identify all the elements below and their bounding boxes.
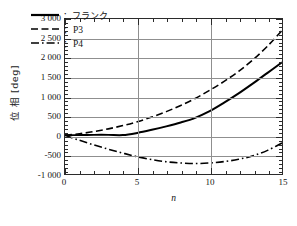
- y-axis-minor-tick: [279, 160, 282, 161]
- y-axis-major-tick: [276, 39, 282, 40]
- y-axis-major-tick: [65, 117, 71, 118]
- x-axis-minor-tick: [240, 171, 241, 174]
- y-axis-minor-tick: [279, 105, 282, 106]
- y-axis-minor-tick: [279, 133, 282, 134]
- y-axis-minor-tick: [65, 66, 68, 67]
- y-axis-minor-tick: [279, 113, 282, 114]
- y-axis-minor-tick: [279, 121, 282, 122]
- x-axis-minor-tick: [240, 19, 241, 22]
- y-axis-minor-tick: [65, 82, 68, 83]
- y-axis-minor-tick: [65, 54, 68, 55]
- series-line-P4: [65, 135, 282, 163]
- y-axis-minor-tick: [65, 50, 68, 51]
- y-axis-minor-tick: [279, 149, 282, 150]
- x-axis-major-tick: [65, 168, 66, 174]
- y-axis-tick-label: -500: [45, 150, 62, 160]
- y-axis-tick-label: 2 000: [41, 52, 61, 62]
- x-axis-minor-tick: [94, 171, 95, 174]
- y-axis-minor-tick: [65, 152, 68, 153]
- x-axis-minor-tick: [196, 171, 197, 174]
- x-axis-minor-tick: [196, 19, 197, 22]
- y-axis-minor-tick: [279, 50, 282, 51]
- x-axis-minor-tick: [255, 19, 256, 22]
- legend-item-label: ：P4: [63, 36, 83, 50]
- x-axis-major-tick: [138, 168, 139, 174]
- y-axis-minor-tick: [279, 141, 282, 142]
- y-axis-minor-tick: [279, 70, 282, 71]
- y-axis-minor-tick: [65, 62, 68, 63]
- y-axis-minor-tick: [65, 145, 68, 146]
- y-axis-major-tick: [65, 58, 71, 59]
- legend-item-label: ：P3: [63, 22, 83, 36]
- y-axis-minor-tick: [279, 125, 282, 126]
- x-axis-title: n: [64, 193, 283, 203]
- y-axis-major-tick: [65, 98, 71, 99]
- x-axis-minor-tick: [80, 171, 81, 174]
- y-axis-major-tick: [65, 156, 71, 157]
- y-axis-tick-label: 0: [57, 131, 62, 141]
- y-axis-minor-tick: [279, 43, 282, 44]
- x-axis-tick-labels: 051015: [64, 177, 283, 191]
- legend-item: ：P3: [30, 22, 150, 36]
- y-axis-minor-tick: [279, 164, 282, 165]
- y-axis-minor-tick: [65, 164, 68, 165]
- legend-line-swatch: [30, 38, 60, 48]
- y-axis-minor-tick: [279, 172, 282, 173]
- y-axis-minor-tick: [279, 66, 282, 67]
- x-axis-minor-tick: [182, 171, 183, 174]
- y-axis-minor-tick: [279, 152, 282, 153]
- y-axis-minor-tick: [65, 109, 68, 110]
- y-axis-minor-tick: [65, 94, 68, 95]
- x-axis-minor-tick: [153, 19, 154, 22]
- horizontal-gridline: [65, 78, 282, 79]
- y-axis-minor-tick: [65, 90, 68, 91]
- y-axis-major-tick: [276, 78, 282, 79]
- y-axis-minor-tick: [279, 145, 282, 146]
- y-axis-minor-tick: [65, 86, 68, 87]
- y-axis-minor-tick: [65, 149, 68, 150]
- y-axis-minor-tick: [279, 74, 282, 75]
- x-axis-tick-label: 15: [279, 177, 288, 187]
- y-axis-minor-tick: [279, 94, 282, 95]
- y-axis-minor-tick: [65, 129, 68, 130]
- y-axis-minor-tick: [279, 31, 282, 32]
- x-axis-major-tick: [211, 19, 212, 25]
- y-axis-tick-label: 500: [48, 111, 62, 121]
- x-axis-tick-label: 10: [206, 177, 215, 187]
- y-axis-minor-tick: [65, 133, 68, 134]
- legend-item: ：P4: [30, 36, 150, 50]
- vertical-gridline: [211, 19, 212, 174]
- y-axis-minor-tick: [279, 86, 282, 87]
- x-axis-minor-tick: [182, 19, 183, 22]
- y-axis-minor-tick: [65, 74, 68, 75]
- horizontal-gridline: [65, 117, 282, 118]
- y-axis-major-tick: [276, 117, 282, 118]
- x-axis-minor-tick: [153, 171, 154, 174]
- y-axis-minor-tick: [279, 35, 282, 36]
- horizontal-gridline: [65, 156, 282, 157]
- x-axis-minor-tick: [123, 171, 124, 174]
- y-axis-minor-tick: [279, 90, 282, 91]
- y-axis-minor-tick: [65, 101, 68, 102]
- chart-figure: 位 相 [deg] -1 000-50005001 0001 5002 0002…: [0, 0, 297, 226]
- y-axis-minor-tick: [65, 141, 68, 142]
- y-axis-major-tick: [276, 58, 282, 59]
- y-axis-minor-tick: [65, 105, 68, 106]
- y-axis-major-tick: [276, 19, 282, 20]
- y-axis-minor-tick: [279, 129, 282, 130]
- y-axis-minor-tick: [65, 70, 68, 71]
- x-axis-tick-label: 5: [135, 177, 140, 187]
- horizontal-gridline: [65, 58, 282, 59]
- y-axis-tick-label: -1 000: [38, 170, 61, 180]
- y-axis-major-tick: [276, 156, 282, 157]
- x-axis-minor-tick: [269, 171, 270, 174]
- x-axis-minor-tick: [109, 171, 110, 174]
- x-axis-minor-tick: [226, 19, 227, 22]
- y-axis-minor-tick: [279, 82, 282, 83]
- y-axis-minor-tick: [279, 168, 282, 169]
- series-line-フランク: [65, 62, 282, 135]
- legend-item: ：フランク: [30, 8, 150, 22]
- horizontal-gridline: [65, 137, 282, 138]
- x-axis-minor-tick: [255, 171, 256, 174]
- y-axis-tick-label: 1 000: [41, 92, 61, 102]
